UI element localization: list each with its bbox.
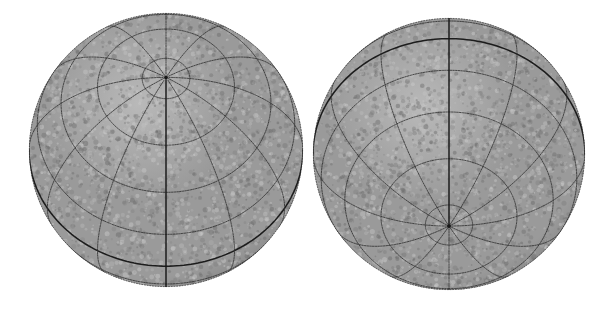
texture-speckle xyxy=(484,206,489,211)
texture-speckle xyxy=(160,111,162,113)
texture-speckle xyxy=(294,168,296,170)
texture-speckle xyxy=(109,261,114,266)
texture-speckle xyxy=(553,159,557,163)
texture-speckle xyxy=(351,161,353,163)
texture-speckle xyxy=(379,125,382,128)
texture-speckle xyxy=(271,159,276,164)
texture-speckle xyxy=(52,205,56,209)
texture-speckle xyxy=(236,129,238,131)
texture-speckle xyxy=(150,268,154,272)
texture-speckle xyxy=(111,129,115,133)
texture-speckle xyxy=(421,129,426,134)
texture-speckle xyxy=(452,50,456,54)
texture-speckle xyxy=(170,170,174,174)
texture-speckle xyxy=(123,51,127,55)
texture-speckle xyxy=(223,161,225,163)
texture-speckle xyxy=(441,84,443,86)
texture-speckle xyxy=(393,121,396,124)
texture-speckle xyxy=(391,266,394,269)
texture-speckle xyxy=(280,164,282,166)
texture-speckle xyxy=(150,64,155,69)
texture-speckle xyxy=(103,243,106,246)
texture-speckle xyxy=(123,127,126,130)
texture-speckle xyxy=(213,48,215,50)
texture-speckle xyxy=(561,169,565,173)
texture-speckle xyxy=(174,230,176,232)
texture-speckle xyxy=(468,27,472,31)
texture-speckle xyxy=(414,78,416,80)
texture-speckle xyxy=(477,274,478,275)
texture-speckle xyxy=(181,95,185,99)
texture-speckle xyxy=(221,209,225,213)
texture-speckle xyxy=(252,177,254,179)
texture-speckle xyxy=(86,173,88,175)
texture-speckle xyxy=(289,203,291,205)
texture-speckle xyxy=(148,197,152,201)
texture-speckle xyxy=(461,91,465,95)
texture-speckle xyxy=(151,106,153,108)
texture-speckle xyxy=(396,88,400,92)
texture-speckle xyxy=(220,216,222,218)
texture-speckle xyxy=(486,248,488,250)
texture-speckle xyxy=(101,50,103,52)
texture-speckle xyxy=(481,227,484,230)
texture-speckle xyxy=(490,108,494,112)
texture-speckle xyxy=(468,96,472,100)
texture-speckle xyxy=(495,37,498,40)
texture-speckle xyxy=(195,253,198,256)
texture-speckle xyxy=(531,226,533,228)
texture-speckle xyxy=(461,146,465,150)
texture-speckle xyxy=(198,86,202,90)
texture-speckle xyxy=(109,137,113,141)
texture-speckle xyxy=(88,175,90,177)
texture-speckle xyxy=(110,195,112,197)
texture-speckle xyxy=(158,225,160,227)
texture-speckle xyxy=(246,150,250,154)
texture-speckle xyxy=(521,217,524,220)
texture-speckle xyxy=(550,151,552,153)
texture-speckle xyxy=(119,231,122,234)
texture-speckle xyxy=(510,70,512,72)
texture-speckle xyxy=(259,162,262,165)
texture-speckle xyxy=(156,119,160,123)
texture-speckle xyxy=(367,231,369,233)
texture-speckle xyxy=(573,142,577,146)
texture-speckle xyxy=(217,157,220,160)
texture-speckle xyxy=(518,243,520,245)
texture-speckle xyxy=(96,146,98,148)
texture-speckle xyxy=(269,180,271,182)
texture-speckle xyxy=(153,24,158,29)
texture-speckle xyxy=(352,231,356,235)
texture-speckle xyxy=(506,203,508,205)
texture-speckle xyxy=(184,81,186,83)
texture-speckle xyxy=(478,157,483,162)
texture-speckle xyxy=(126,153,129,156)
texture-speckle xyxy=(440,29,444,33)
texture-speckle xyxy=(156,131,158,133)
texture-speckle xyxy=(112,65,116,69)
texture-speckle xyxy=(430,141,433,144)
texture-speckle xyxy=(510,109,513,112)
texture-speckle xyxy=(425,50,428,53)
texture-speckle xyxy=(264,123,267,126)
texture-speckle xyxy=(123,71,125,73)
texture-speckle xyxy=(255,118,260,123)
texture-speckle xyxy=(253,215,257,219)
texture-speckle xyxy=(447,253,451,257)
texture-speckle xyxy=(206,93,208,95)
texture-speckle xyxy=(127,115,129,117)
texture-speckle xyxy=(372,97,377,102)
texture-speckle xyxy=(219,148,223,152)
texture-speckle xyxy=(373,166,377,170)
texture-speckle xyxy=(239,179,243,183)
texture-speckle xyxy=(457,270,459,272)
texture-speckle xyxy=(126,234,129,237)
texture-speckle xyxy=(488,204,490,206)
texture-speckle xyxy=(115,31,118,34)
texture-speckle xyxy=(498,246,502,250)
texture-speckle xyxy=(146,147,151,152)
texture-speckle xyxy=(262,105,267,110)
texture-speckle xyxy=(480,44,483,47)
texture-speckle xyxy=(217,33,221,37)
texture-speckle xyxy=(191,125,194,128)
